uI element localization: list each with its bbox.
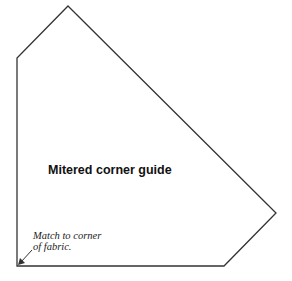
note-line-1: Match to corner bbox=[33, 230, 101, 241]
pointer-arrow-icon bbox=[21, 250, 32, 262]
corner-note: Match to corner of fabric. bbox=[33, 230, 101, 252]
guide-title: Mitered corner guide bbox=[48, 163, 172, 177]
note-line-2: of fabric. bbox=[33, 241, 101, 252]
